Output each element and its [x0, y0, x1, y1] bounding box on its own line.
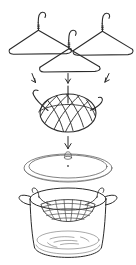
lid-center-dot [67, 165, 69, 167]
diagram-canvas [0, 0, 136, 265]
hanger-steamer-diagram: Wire hangers converted into a steamer ba… [0, 0, 136, 265]
